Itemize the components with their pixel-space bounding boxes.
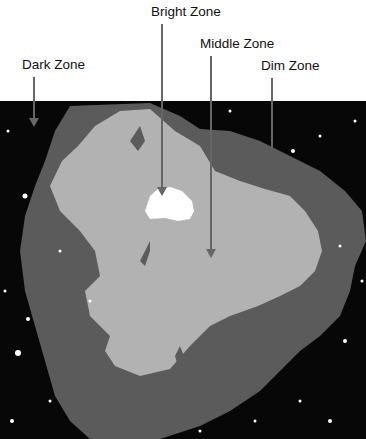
arrowhead-icon (206, 249, 216, 258)
arrowhead-icon (29, 118, 39, 127)
label-middle-zone: Middle Zone (200, 36, 274, 51)
nebula-image (0, 101, 366, 439)
arrow-dark-zone (33, 77, 35, 125)
label-dim-zone: Dim Zone (261, 58, 320, 73)
arrow-middle-zone (210, 56, 212, 256)
arrow-dim-zone (271, 78, 273, 148)
arrowhead-icon (157, 187, 167, 196)
label-bright-zone: Bright Zone (151, 4, 221, 19)
arrow-bright-zone (161, 24, 163, 194)
zone-map (0, 101, 366, 439)
label-dark-zone: Dark Zone (22, 57, 85, 72)
